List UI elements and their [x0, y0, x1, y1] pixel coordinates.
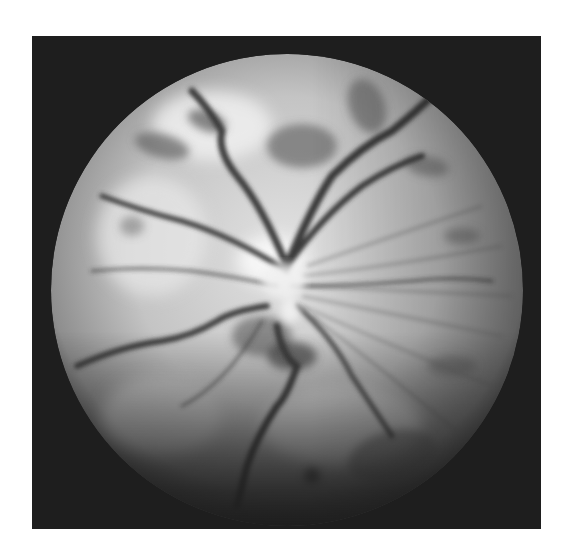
- fundus-photograph: [32, 36, 541, 529]
- fundus-field: [32, 36, 541, 529]
- photo-frame: [32, 36, 541, 529]
